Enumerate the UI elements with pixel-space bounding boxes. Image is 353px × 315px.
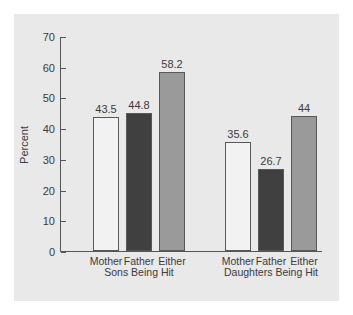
- bar: 43.5Mother: [93, 117, 119, 251]
- y-axis-title: Percent: [19, 126, 30, 164]
- y-tick-label: 50: [43, 93, 55, 104]
- y-tick-mark: [61, 37, 66, 38]
- bar-chart-figure: Percent 010203040506070 43.5Mother44.8Fa…: [14, 14, 339, 301]
- y-tick-label: 30: [43, 154, 55, 165]
- y-tick-mark: [61, 160, 66, 161]
- x-tick-label: Mother: [90, 256, 123, 267]
- y-tick-label: 70: [43, 32, 55, 43]
- y-tick-label: 10: [43, 216, 55, 227]
- y-tick-mark: [61, 252, 66, 253]
- bar: 58.2Either: [159, 72, 185, 251]
- y-tick-mark: [61, 191, 66, 192]
- x-tick-label: Either: [290, 256, 317, 267]
- y-tick-label: 60: [43, 62, 55, 73]
- bar: 44.8Father: [126, 113, 152, 251]
- bar-value-label: 44.8: [128, 100, 149, 111]
- group-label: Sons Being Hit: [104, 267, 173, 278]
- x-tick-label: Mother: [222, 256, 255, 267]
- group-label: Daughters Being Hit: [224, 267, 318, 278]
- bar-value-label: 58.2: [161, 59, 182, 70]
- y-tick-mark: [61, 68, 66, 69]
- bar-value-label: 26.7: [260, 156, 281, 167]
- y-tick-label: 0: [49, 247, 55, 258]
- bar-value-label: 35.6: [227, 129, 248, 140]
- y-tick-label: 40: [43, 124, 55, 135]
- plot-area: 010203040506070 43.5Mother44.8Father58.2…: [60, 37, 322, 252]
- x-tick-label: Father: [124, 256, 154, 267]
- bar-value-label: 43.5: [95, 104, 116, 115]
- bar: 26.7Father: [258, 169, 284, 251]
- x-axis-line: [60, 251, 322, 252]
- y-axis-line: [60, 37, 61, 252]
- y-tick-mark: [61, 98, 66, 99]
- bar-value-label: 44: [298, 103, 310, 114]
- x-tick-label: Either: [158, 256, 185, 267]
- bar: 35.6Mother: [225, 142, 251, 251]
- bar: 44Either: [291, 116, 317, 251]
- x-tick-label: Father: [256, 256, 286, 267]
- y-tick-mark: [61, 129, 66, 130]
- y-tick-mark: [61, 221, 66, 222]
- y-tick-label: 20: [43, 185, 55, 196]
